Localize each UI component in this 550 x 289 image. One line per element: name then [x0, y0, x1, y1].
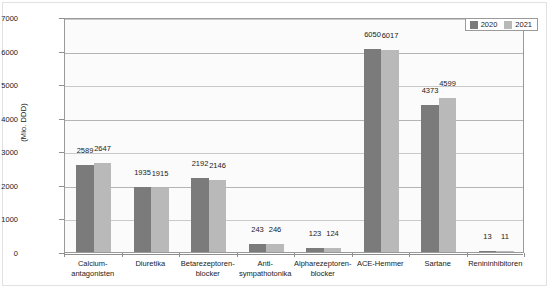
bar-value-label: 2589 — [76, 146, 94, 155]
y-axis-tick-label: 1000 — [0, 215, 18, 224]
bar-group: 243246 — [249, 19, 284, 252]
bar-value-label: 4373 — [421, 86, 439, 95]
bar-value-label: 123 — [306, 229, 324, 238]
y-axis-tick-label: 6000 — [0, 47, 18, 56]
x-axis-category-label: Renininhibitoren — [467, 259, 525, 269]
x-axis-tick-mark — [64, 253, 65, 257]
x-axis-tick-mark — [409, 253, 410, 257]
bar-value-label: 6050 — [364, 30, 382, 39]
bar-value-label: 4599 — [439, 79, 457, 88]
bar-2021[interactable] — [151, 188, 169, 252]
bar-value-label: 11 — [496, 232, 514, 241]
y-axis-tick-label: 0 — [0, 249, 18, 258]
bar-value-label: 243 — [249, 225, 267, 234]
bar-value-label: 2647 — [94, 144, 112, 153]
bar-2021[interactable] — [324, 248, 342, 252]
x-axis-tick-mark — [352, 253, 353, 257]
x-axis-category-label: ACE-Hemmer — [352, 259, 410, 269]
legend-item-2020[interactable]: 2020 — [470, 20, 498, 29]
bar-group: 123124 — [306, 19, 341, 252]
bar-2020[interactable] — [76, 165, 94, 252]
x-axis-tick-mark — [467, 253, 468, 257]
bar-2021[interactable] — [439, 98, 457, 252]
bar-group: 21922146 — [191, 19, 226, 252]
legend-item-2021[interactable]: 2021 — [504, 20, 532, 29]
bar-2021[interactable] — [381, 50, 399, 252]
bar-group: 1311 — [479, 19, 514, 252]
bar-value-label: 1935 — [134, 168, 152, 177]
bar-2021[interactable] — [496, 251, 514, 252]
bar-2020[interactable] — [306, 248, 324, 252]
y-axis-tick-label: 2000 — [0, 181, 18, 190]
y-axis-tick-label: 5000 — [0, 81, 18, 90]
bar-value-label: 6017 — [381, 31, 399, 40]
x-axis-tick-mark — [294, 253, 295, 257]
y-axis-tick-label: 4000 — [0, 114, 18, 123]
bar-value-label: 13 — [479, 232, 497, 241]
bar-group: 60506017 — [364, 19, 399, 252]
x-axis-category-label: Diuretika — [122, 259, 180, 269]
x-axis-tick-mark — [122, 253, 123, 257]
x-axis-tick-mark — [179, 253, 180, 257]
bar-series-layer: 2589264719351915219221462432461231246050… — [65, 19, 523, 252]
x-axis-tick-mark — [237, 253, 238, 257]
bar-chart-figure: (Mio. DDD) 01000200030004000500060007000… — [0, 0, 550, 289]
bar-group: 43734599 — [421, 19, 456, 252]
bar-value-label: 2146 — [209, 161, 227, 170]
y-axis-tick-label: 7000 — [0, 14, 18, 23]
bar-2021[interactable] — [94, 163, 112, 252]
bar-2020[interactable] — [421, 105, 439, 252]
chart-legend: 2020 2021 — [465, 18, 538, 31]
bar-2021[interactable] — [266, 244, 284, 252]
bar-group: 25892647 — [76, 19, 111, 252]
y-axis-title: (Mio. DDD) — [19, 78, 28, 168]
y-axis-tick-label: 3000 — [0, 148, 18, 157]
legend-label-2021: 2021 — [515, 20, 532, 29]
bar-2020[interactable] — [134, 187, 152, 252]
bar-value-label: 124 — [324, 229, 342, 238]
bar-2020[interactable] — [191, 178, 209, 252]
bar-value-label: 2192 — [191, 159, 209, 168]
bar-2021[interactable] — [209, 180, 227, 252]
bar-value-label: 1915 — [151, 169, 169, 178]
bar-2020[interactable] — [364, 49, 382, 252]
x-axis-category-label: Anti- sympathotonika — [237, 259, 295, 278]
legend-label-2020: 2020 — [481, 20, 498, 29]
x-axis-category-label: Calcium- antagonisten — [64, 259, 122, 278]
bar-2020[interactable] — [479, 251, 497, 252]
bar-2020[interactable] — [249, 244, 267, 252]
x-axis-category-label: Betarezeptoren- blocker — [179, 259, 237, 278]
legend-swatch-icon-2020 — [470, 21, 478, 29]
x-axis-tick-mark — [524, 253, 525, 257]
plot-area: 2589264719351915219221462432461231246050… — [64, 18, 524, 253]
legend-swatch-icon-2021 — [504, 21, 512, 29]
x-axis-category-label: Sartane — [409, 259, 467, 269]
x-axis-category-label: Alpharezeptoren- blocker — [294, 259, 352, 278]
bar-group: 19351915 — [134, 19, 169, 252]
bar-value-label: 246 — [266, 225, 284, 234]
